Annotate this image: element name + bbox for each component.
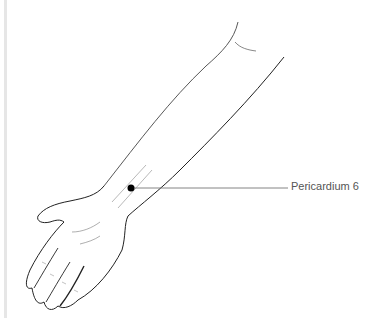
elbow-crease: [235, 42, 256, 51]
arm-outline-bottom: [128, 57, 284, 216]
palm-crease-1: [72, 222, 100, 232]
arm-illustration: [0, 0, 380, 318]
point-label: Pericardium 6: [291, 180, 359, 192]
tendon-line-2: [118, 170, 152, 208]
hand-outline: [26, 186, 128, 309]
tendon-line-1: [112, 165, 146, 202]
acupressure-point: [128, 185, 135, 192]
finger-line-1: [34, 248, 58, 288]
palm-crease-2: [80, 236, 100, 244]
arm-outline-top: [104, 22, 238, 186]
